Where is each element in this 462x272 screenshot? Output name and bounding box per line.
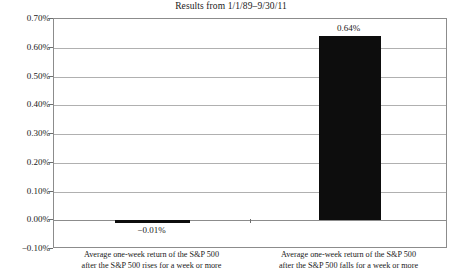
bar-chart-figure: Results from 1/1/89–9/30/11 0.70%0.60%0.… xyxy=(0,0,462,272)
bar-value-label: 0.64% xyxy=(337,23,360,33)
chart-title: Results from 1/1/89–9/30/11 xyxy=(0,1,462,11)
y-tick-label: 0.00% xyxy=(2,214,50,224)
bar[interactable] xyxy=(115,220,190,223)
y-tick-mark xyxy=(48,248,53,249)
gridline xyxy=(54,48,446,49)
y-tick-label: 0.30% xyxy=(2,128,50,138)
gridline xyxy=(54,105,446,106)
bar[interactable] xyxy=(319,36,381,220)
bar-value-label: −0.01% xyxy=(137,225,165,235)
gridline xyxy=(54,192,446,193)
y-tick-label: 0.70% xyxy=(2,13,50,23)
y-tick-label: −0.10% xyxy=(2,243,50,253)
x-category-label: Average one-week return of the S&P 500af… xyxy=(47,250,257,271)
y-tick-label: 0.60% xyxy=(2,42,50,52)
y-tick-label: 0.40% xyxy=(2,99,50,109)
x-tick-mark xyxy=(250,219,251,223)
gridline xyxy=(54,163,446,164)
gridline xyxy=(54,134,446,135)
plot-area xyxy=(53,18,447,248)
y-tick-label: 0.10% xyxy=(2,186,50,196)
gridline xyxy=(54,77,446,78)
y-tick-label: 0.50% xyxy=(2,71,50,81)
x-category-label: Average one-week return of the S&P 500af… xyxy=(244,250,454,271)
y-tick-label: 0.20% xyxy=(2,157,50,167)
